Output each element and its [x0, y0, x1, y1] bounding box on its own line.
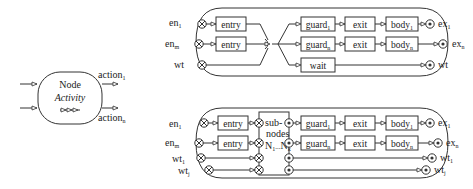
- merge-junction: [265, 39, 270, 49]
- svg-text:exit: exit: [353, 139, 368, 149]
- svg-text:exit: exit: [353, 40, 368, 50]
- bottom-input-wtj: wtj: [178, 165, 190, 177]
- svg-text:guardn: guardn: [306, 40, 331, 51]
- bottom-output-ex1: ex1: [438, 117, 450, 129]
- svg-text:entry: entry: [221, 20, 241, 30]
- svg-text:bodyn: bodyn: [391, 40, 413, 51]
- svg-text:exit: exit: [353, 119, 368, 129]
- svg-text:bodyn: bodyn: [391, 139, 413, 150]
- svg-text:wait: wait: [310, 61, 327, 71]
- bottom-diagram: en1 enm wt1 wtj entry entry sub- nodes N…: [165, 108, 458, 178]
- top-input-enm: enm: [165, 38, 179, 50]
- bottom-output-exn: exn: [446, 137, 458, 149]
- svg-text:body1: body1: [391, 119, 413, 130]
- node-subtitle: Activity: [54, 92, 86, 103]
- top-diagram: en1 enm wt entry entry guard1 gu: [165, 8, 464, 76]
- bottom-input-wt1: wt1: [172, 153, 185, 165]
- action-n-label: actionn: [98, 112, 125, 124]
- svg-text:entry: entry: [223, 119, 243, 129]
- top-output-exn: exn: [452, 38, 464, 50]
- subnodes-label-2: nodes: [266, 128, 289, 139]
- svg-text:exit: exit: [353, 20, 368, 30]
- node-activity-summary: Node Activity action1 actionn: [20, 69, 125, 124]
- node-title: Node: [59, 79, 81, 90]
- top-output-wt: wt: [438, 59, 448, 70]
- top-input-wt: wt: [174, 59, 184, 70]
- bottom-input-enm: enm: [165, 137, 179, 149]
- svg-text:entry: entry: [221, 40, 241, 50]
- subnodes-label-1: sub-: [265, 117, 282, 128]
- action-1-label: action1: [98, 69, 125, 81]
- bottom-output-wt1: wt1: [440, 152, 453, 164]
- svg-text:body1: body1: [391, 20, 413, 31]
- top-input-en1: en1: [169, 17, 181, 29]
- svg-text:entry: entry: [223, 139, 243, 149]
- top-output-ex1: ex1: [438, 18, 450, 30]
- svg-text:guardn: guardn: [306, 139, 331, 150]
- activity-diagram: Node Activity action1 actionn en1 enm wt…: [0, 0, 473, 189]
- svg-text:guard1: guard1: [306, 119, 331, 130]
- bottom-input-en1: en1: [169, 118, 181, 130]
- svg-text:guard1: guard1: [306, 20, 331, 31]
- bottom-output-wtj: wtj: [434, 164, 446, 176]
